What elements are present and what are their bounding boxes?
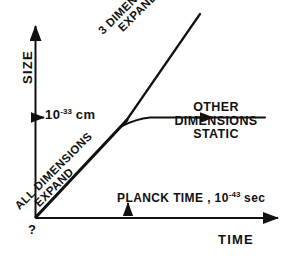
static-branch-annotation: OTHER DIMENSIONS STATIC (170, 101, 262, 142)
planck-time-unit: sec (244, 191, 265, 205)
size-scale-exponent: -33 (60, 107, 72, 116)
y-axis-title: SIZE (21, 37, 35, 97)
cosmology-schematic-figure: SIZE TIME 10-33 cm 3 DIMENSIONS EXPAND A… (0, 0, 297, 259)
static-branch-line-3: STATIC (170, 128, 262, 142)
origin-question-mark: ? (28, 223, 36, 237)
planck-time-exponent: -43 (229, 190, 241, 199)
static-branch-line-1: OTHER (170, 101, 262, 115)
x-axis-title: TIME (218, 233, 254, 247)
static-branch-line-2: DIMENSIONS (170, 115, 262, 129)
planck-time-annotation: PLANCK TIME , 10-43 sec (117, 191, 265, 205)
size-scale-mantissa: 10 (45, 107, 60, 122)
size-scale-unit: cm (76, 107, 96, 122)
planck-time-prefix: PLANCK TIME , (117, 191, 215, 205)
size-scale-annotation: 10-33 cm (45, 108, 95, 122)
planck-time-mantissa: 10 (215, 191, 229, 205)
